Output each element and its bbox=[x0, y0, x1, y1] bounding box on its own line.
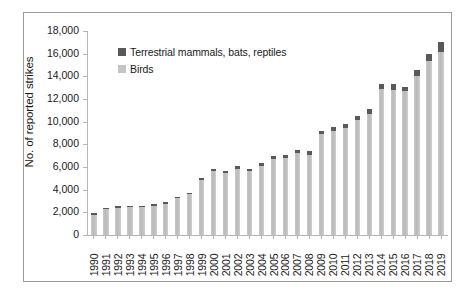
y-axis-tick-label: 4,000 bbox=[53, 183, 79, 195]
x-axis-tick-label: 2000 bbox=[208, 254, 220, 277]
x-axis-tick-mark bbox=[153, 235, 154, 239]
x-axis-tick bbox=[327, 235, 339, 239]
stacked-bar bbox=[355, 116, 360, 235]
bar-segment-birds bbox=[163, 204, 168, 235]
stacked-bar bbox=[151, 204, 156, 235]
bar-segment-birds bbox=[379, 89, 384, 235]
x-axis-tick-mark bbox=[309, 235, 310, 239]
stacked-bar bbox=[379, 84, 384, 235]
x-axis-tick-label: 2007 bbox=[291, 254, 303, 277]
bar-slot bbox=[88, 31, 100, 235]
x-axis-label-slot: 1999 bbox=[196, 241, 208, 285]
x-axis-label-slot: 2008 bbox=[303, 241, 315, 285]
stacked-bar bbox=[426, 54, 431, 235]
x-axis-tick bbox=[160, 235, 172, 239]
stacked-bar bbox=[139, 206, 144, 235]
chart-legend: Terrestrial mammals, bats, reptiles Bird… bbox=[118, 46, 286, 80]
stacked-bar bbox=[211, 169, 216, 235]
x-axis-tick bbox=[339, 235, 351, 239]
bar-segment-birds bbox=[402, 91, 407, 235]
x-axis-tick-label: 2002 bbox=[232, 254, 244, 277]
stacked-bar bbox=[103, 208, 108, 235]
stacked-bar bbox=[343, 124, 348, 235]
x-axis-tick-mark bbox=[141, 235, 142, 239]
bar-segment-mammals bbox=[438, 42, 443, 52]
x-axis-tick-label: 1997 bbox=[172, 254, 184, 277]
x-axis-tick-label: 2006 bbox=[279, 254, 291, 277]
x-axis-tick bbox=[363, 235, 375, 239]
x-axis-label-slot: 2017 bbox=[411, 241, 423, 285]
stacked-bar bbox=[402, 87, 407, 235]
x-axis-tick-mark bbox=[249, 235, 250, 239]
bar-segment-birds bbox=[343, 128, 348, 235]
x-axis-tick-label: 2013 bbox=[363, 254, 375, 277]
x-axis-tick-mark bbox=[93, 235, 94, 239]
stacked-bar bbox=[187, 193, 192, 235]
x-axis-tick-mark bbox=[225, 235, 226, 239]
x-axis-label-slot: 1997 bbox=[172, 241, 184, 285]
x-axis-tick-label: 2015 bbox=[387, 254, 399, 277]
x-axis-tick bbox=[208, 235, 220, 239]
x-axis-label-slot: 2018 bbox=[423, 241, 435, 285]
stacked-bar bbox=[223, 171, 228, 235]
x-axis-tick bbox=[351, 235, 363, 239]
stacked-bar bbox=[307, 151, 312, 235]
y-axis-ticks: 02,0004,0006,0008,00010,00012,00014,0001… bbox=[0, 0, 87, 292]
bar-segment-birds bbox=[391, 90, 396, 235]
x-axis-label-slot: 1998 bbox=[184, 241, 196, 285]
y-axis-tick-label: 8,000 bbox=[53, 137, 79, 149]
x-axis-tick-label: 2016 bbox=[399, 254, 411, 277]
x-axis-label-slot: 2016 bbox=[399, 241, 411, 285]
x-axis-tick bbox=[423, 235, 435, 239]
x-axis-label-slot: 2007 bbox=[291, 241, 303, 285]
bar-segment-birds bbox=[307, 155, 312, 235]
x-axis-tick bbox=[88, 235, 100, 239]
x-axis-tick-mark bbox=[237, 235, 238, 239]
bar-segment-birds bbox=[103, 209, 108, 235]
x-axis-tick bbox=[184, 235, 196, 239]
bar-segment-birds bbox=[223, 173, 228, 235]
x-axis-label-slot: 1995 bbox=[148, 241, 160, 285]
x-axis-tick bbox=[303, 235, 315, 239]
x-axis-tick-mark bbox=[117, 235, 118, 239]
bar-segment-birds bbox=[259, 166, 264, 235]
x-axis-label-slot: 2002 bbox=[232, 241, 244, 285]
x-axis-tick-mark bbox=[105, 235, 106, 239]
x-axis-tick bbox=[244, 235, 256, 239]
y-axis-tick-label: 14,000 bbox=[47, 69, 79, 81]
y-axis-tick-label: 10,000 bbox=[47, 115, 79, 127]
x-axis-tick bbox=[291, 235, 303, 239]
y-axis-tick-label: 2,000 bbox=[53, 205, 79, 217]
bar-slot bbox=[435, 31, 447, 235]
x-axis-tick bbox=[112, 235, 124, 239]
x-axis-label-slot: 1993 bbox=[124, 241, 136, 285]
bar-slot bbox=[351, 31, 363, 235]
y-axis-tick-label: 0 bbox=[73, 228, 79, 240]
x-axis-tick bbox=[411, 235, 423, 239]
x-axis-tick-label: 2018 bbox=[423, 254, 435, 277]
x-axis-label-slot: 2009 bbox=[315, 241, 327, 285]
x-axis-label-slot: 2003 bbox=[244, 241, 256, 285]
x-axis-tick-label: 2004 bbox=[256, 254, 268, 277]
bar-segment-birds bbox=[331, 131, 336, 235]
stacked-bar bbox=[283, 155, 288, 235]
x-axis-label-slot: 1992 bbox=[112, 241, 124, 285]
x-axis-tick-mark bbox=[369, 235, 370, 239]
x-axis-tick bbox=[375, 235, 387, 239]
x-axis-tick-label: 2008 bbox=[303, 254, 315, 277]
stacked-bar bbox=[331, 127, 336, 235]
x-axis-tick-mark bbox=[417, 235, 418, 239]
x-axis-label-slot: 2001 bbox=[220, 241, 232, 285]
x-axis-tick-mark bbox=[201, 235, 202, 239]
x-axis-tick bbox=[148, 235, 160, 239]
x-axis-label-slot: 2014 bbox=[375, 241, 387, 285]
x-axis-tick-mark bbox=[357, 235, 358, 239]
x-axis-tick-mark bbox=[177, 235, 178, 239]
bar-slot bbox=[339, 31, 351, 235]
bar-slot bbox=[363, 31, 375, 235]
x-axis-tick-label: 1996 bbox=[160, 254, 172, 277]
bar-segment-birds bbox=[211, 171, 216, 235]
x-axis-tick-mark bbox=[261, 235, 262, 239]
x-axis-tick-mark bbox=[321, 235, 322, 239]
x-axis-tick bbox=[256, 235, 268, 239]
